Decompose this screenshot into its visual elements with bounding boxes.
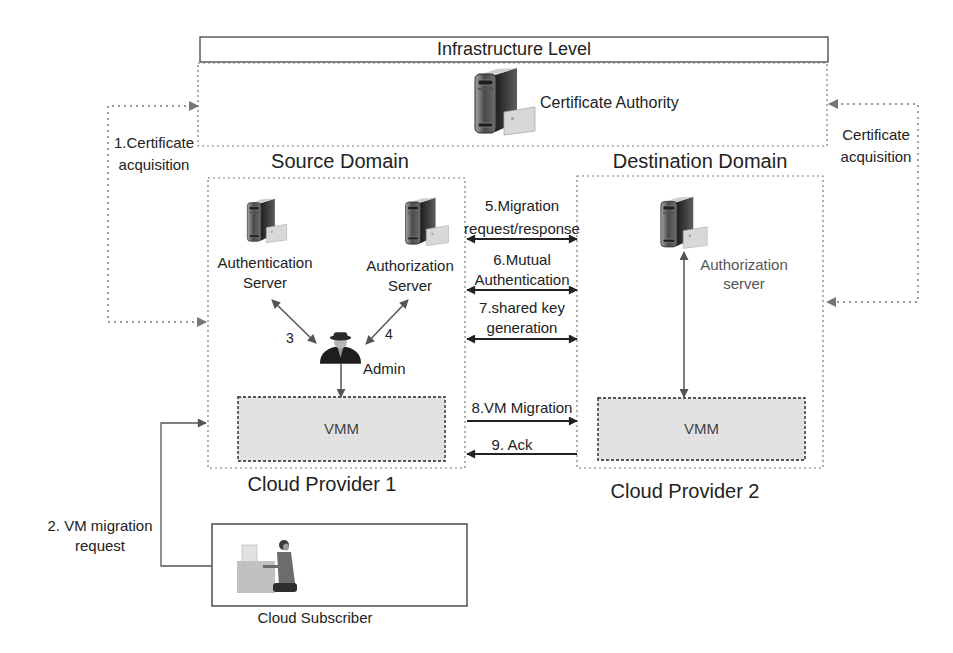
cloud-provider-1-label: Cloud Provider 1 (222, 473, 422, 495)
destination-authorization-server-label: Authorization server (690, 255, 798, 293)
label-line: acquisition (106, 154, 202, 176)
label-line: generation (452, 318, 592, 338)
label-line: 5.Migration (452, 194, 592, 217)
label-line: request/response (452, 217, 592, 240)
label-line: server (690, 274, 798, 293)
certificate-authority-label: Certificate Authority (540, 93, 679, 113)
label-line: 7.shared key (452, 298, 592, 318)
authentication-server-label: Authentication Server (205, 253, 325, 293)
message-9-label: 9. Ack (462, 435, 562, 455)
label-line: 1.Certificate (106, 132, 202, 154)
server-certificate-icon (475, 68, 535, 135)
source-domain-title: Source Domain (208, 150, 472, 172)
label-line: acquisition (826, 146, 926, 168)
label-line: 2. VM migration (40, 516, 160, 536)
vm-migration-architecture-diagram: Infrastructure Level Certificate Authori… (0, 0, 953, 653)
admin-user-icon (320, 332, 361, 363)
destination-domain-title: Destination Domain (577, 150, 823, 172)
label-line: Server (205, 273, 325, 293)
infrastructure-level-title: Infrastructure Level (200, 37, 828, 62)
admin-label: Admin (363, 359, 406, 379)
arrow-vm-migration-request (161, 423, 212, 566)
message-8-label: 8.VM Migration (452, 398, 592, 418)
message-5-label: 5.Migration request/response (452, 194, 592, 240)
cloud-subscriber-label: Cloud Subscriber (240, 608, 390, 628)
label-line: request (40, 536, 160, 556)
source-vmm-label: VMM (238, 419, 445, 439)
destination-vmm-label: VMM (598, 419, 805, 439)
label-line: Authentication (452, 270, 592, 290)
cloud-provider-2-label: Cloud Provider 2 (585, 480, 785, 502)
server-icon (247, 199, 286, 243)
label-line: 6.Mutual (452, 250, 592, 270)
server-certificate-icon (406, 198, 449, 246)
step-4-label: 4 (385, 324, 393, 344)
certificate-acquisition-right-label: Certificate acquisition (826, 124, 926, 168)
message-7-label: 7.shared key generation (452, 298, 592, 338)
label-line: Authorization (690, 255, 798, 274)
label-line: Certificate (826, 124, 926, 146)
step-3-label: 3 (286, 328, 294, 348)
server-certificate-icon (661, 197, 707, 249)
certificate-acquisition-left-label: 1.Certificate acquisition (106, 132, 202, 176)
label-line: Authentication (205, 253, 325, 273)
vm-migration-request-label: 2. VM migration request (40, 516, 160, 556)
arrow-authentication-admin (272, 300, 316, 343)
message-6-label: 6.Mutual Authentication (452, 250, 592, 290)
